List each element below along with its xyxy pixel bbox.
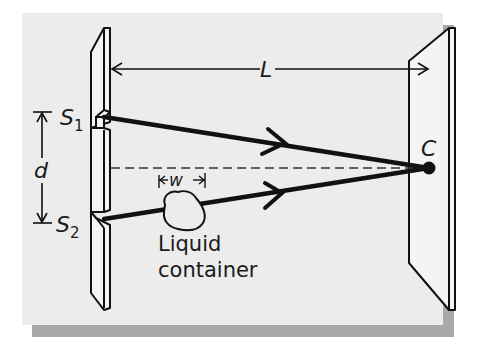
label-d: d: [34, 158, 49, 183]
label-container: container: [158, 258, 258, 282]
label-L: L: [260, 57, 272, 82]
slit-barrier: [91, 28, 110, 310]
label-liquid: Liquid: [158, 232, 221, 256]
point-C: [423, 162, 436, 175]
label-C: C: [421, 136, 437, 161]
label-w: w: [169, 170, 183, 190]
double-slit-diagram: L C w Liquid container: [0, 0, 500, 354]
